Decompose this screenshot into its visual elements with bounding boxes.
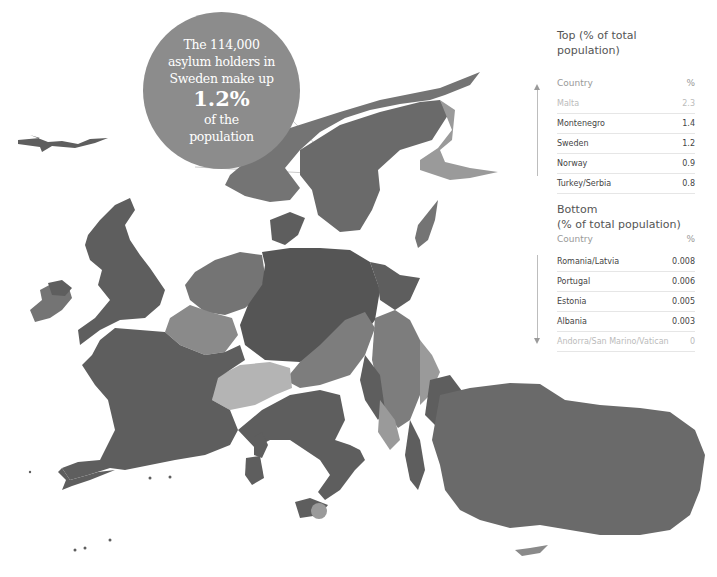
callout-line-2: asylum holders in xyxy=(168,53,275,70)
table-row: Albania 0.003 xyxy=(557,312,695,332)
bottom-table-header: Country % xyxy=(557,232,695,248)
callout-line-3: Sweden make up xyxy=(169,70,273,87)
value-cell: 1.2 xyxy=(682,134,695,153)
country-cell: Portugal xyxy=(557,272,590,291)
country-cell: Andorra/San Marino/Vatican xyxy=(557,332,669,351)
col-country-header: Country xyxy=(557,72,593,94)
table-row: Turkey/Serbia 0.8 xyxy=(557,174,695,194)
sweden-callout-bubble: The 114,000 asylum holders in Sweden mak… xyxy=(143,12,300,169)
table-row: Malta 2.3 xyxy=(557,94,695,114)
arrow-up-icon xyxy=(534,84,540,90)
top-table-title: Top (% of total population) xyxy=(557,28,695,58)
malta-region xyxy=(311,503,327,519)
arrow-down-icon xyxy=(534,338,540,344)
cyprus-region xyxy=(515,545,548,556)
denmark-region xyxy=(270,212,305,245)
table-row: Romania/Latvia 0.008 xyxy=(557,252,695,272)
balkans-coast-region xyxy=(405,420,425,490)
island-dot xyxy=(84,547,87,550)
col-percent-header: % xyxy=(686,72,695,94)
country-cell: Turkey/Serbia xyxy=(557,174,611,193)
value-cell: 0.003 xyxy=(672,312,695,331)
country-cell: Romania/Latvia xyxy=(557,252,619,271)
callout-line-1: The 114,000 xyxy=(183,36,259,53)
island-dot xyxy=(74,549,77,552)
bottom-table-title-line1: Bottom xyxy=(557,202,695,217)
country-cell: Montenegro xyxy=(557,114,605,133)
table-row: Estonia 0.005 xyxy=(557,292,695,312)
country-cell: Sweden xyxy=(557,134,589,153)
island-dot xyxy=(169,476,172,479)
top-table-header: Country % xyxy=(557,72,695,94)
uk-region xyxy=(78,198,165,345)
iceland-region xyxy=(18,135,108,152)
col-country-header: Country xyxy=(557,232,593,248)
country-cell: Norway xyxy=(557,154,587,173)
callout-line-4: of the xyxy=(204,111,239,128)
table-row: Portugal 0.006 xyxy=(557,272,695,292)
callout-value: 1.2% xyxy=(193,87,250,111)
island-dot xyxy=(109,539,112,542)
country-cell: Albania xyxy=(557,312,587,331)
island-dot xyxy=(149,477,152,480)
table-row: Sweden 1.2 xyxy=(557,134,695,154)
value-cell: 0 xyxy=(690,332,695,351)
bottom-table: Bottom (% of total population) Country %… xyxy=(557,202,695,352)
table-row: Montenegro 1.4 xyxy=(557,114,695,134)
col-percent-header: % xyxy=(686,232,695,248)
country-cell: Estonia xyxy=(557,292,586,311)
value-cell: 0.9 xyxy=(682,154,695,173)
table-row: Andorra/San Marino/Vatican 0 xyxy=(557,332,695,352)
table-row: Norway 0.9 xyxy=(557,154,695,174)
callout-line-5: population xyxy=(189,128,254,145)
top-arrow-line xyxy=(537,88,538,176)
value-cell: 1.4 xyxy=(682,114,695,133)
value-cell: 0.005 xyxy=(672,292,695,311)
value-cell: 0.006 xyxy=(672,272,695,291)
value-cell: 2.3 xyxy=(682,94,695,113)
bottom-arrow-line xyxy=(537,255,538,341)
sardinia-region xyxy=(245,456,264,485)
country-cell: Malta xyxy=(557,94,579,113)
baltic-island xyxy=(415,200,438,248)
bottom-table-title-line2: (% of total population) xyxy=(557,217,695,232)
value-cell: 0.8 xyxy=(682,174,695,193)
island-dot xyxy=(29,471,31,473)
turkey-region xyxy=(432,383,705,535)
top-table: Top (% of total population) Country % Ma… xyxy=(557,28,695,194)
value-cell: 0.008 xyxy=(672,252,695,271)
